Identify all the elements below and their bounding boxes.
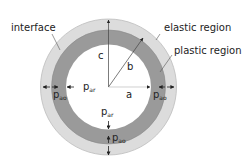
diagram-canvas: interface elastic region plastic region … <box>0 0 245 162</box>
label-radius-c: c <box>98 50 104 61</box>
leader-elastic <box>156 34 160 40</box>
label-interface: interface <box>11 22 56 33</box>
label-radius-a: a <box>126 89 132 100</box>
label-elastic-region: elastic region <box>164 22 231 33</box>
label-plastic-region: plastic region <box>174 45 241 56</box>
label-radius-b: b <box>127 61 133 72</box>
